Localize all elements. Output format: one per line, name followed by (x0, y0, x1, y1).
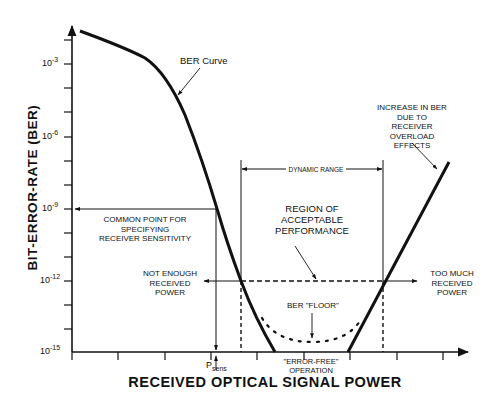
ber-floor-label: BER "FLOOR" (282, 301, 344, 311)
y-tick-1e-6: 10-6 (42, 129, 58, 141)
error-free-label: "ERROR-FREE" OPERATION (266, 357, 356, 375)
region-pointer (295, 246, 316, 279)
y-tick-1e-3: 10-3 (42, 56, 58, 68)
dynamic-range-label: DYNAMIC RANGE (286, 165, 346, 175)
y-tick-1e-9: 10-9 (42, 201, 58, 213)
overload-label: INCREASE IN BER DUE TO RECEIVER OVERLOAD… (352, 103, 472, 151)
ber-curve-pointer (178, 68, 200, 95)
ber-curve-label: BER Curve (180, 55, 228, 66)
y-axis-title: BIT-ERROR-RATE (BER) (25, 88, 40, 288)
not-enough-power-label: NOT ENOUGH RECEIVED POWER (140, 269, 200, 298)
y-tick-1e-12: 10-12 (40, 273, 60, 285)
common-point-label: COMMON POINT FOR SPECIFYING RECEIVER SEN… (80, 215, 210, 244)
y-tick-1e-15: 10-15 (40, 344, 60, 356)
too-much-power-label: TOO MUCH RECEIVED POWER (419, 269, 485, 298)
ber-curve (80, 31, 275, 352)
y-axis (64, 26, 72, 352)
ber-diagram (0, 0, 490, 408)
psens-label: Psens (206, 360, 227, 372)
x-axis-title: RECEIVED OPTICAL SIGNAL POWER (0, 374, 490, 390)
overload-curve (348, 162, 449, 352)
region-label: REGION OF ACCEPTABLE PERFORMANCE (252, 203, 372, 236)
